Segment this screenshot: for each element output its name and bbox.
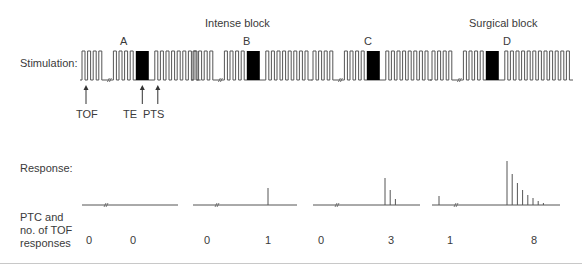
arrows <box>84 85 161 104</box>
tof-arrow-head <box>84 85 89 90</box>
pulse-train <box>430 51 573 80</box>
stimulation-block-b <box>191 51 312 82</box>
stimulation-block-a <box>80 51 201 82</box>
response-traces <box>82 161 560 207</box>
response-trace-a <box>82 203 178 207</box>
response-trace-d <box>432 161 560 207</box>
stimulation-response-diagram <box>0 0 582 269</box>
tetanus-block <box>247 51 260 80</box>
stimulation-block-c <box>311 51 432 82</box>
te-arrow-head <box>140 85 145 90</box>
tetanus-block <box>136 51 149 80</box>
tetanus-block <box>486 51 499 80</box>
bottom-divider <box>0 263 582 264</box>
response-trace-b <box>193 188 297 207</box>
stimulation-trains <box>80 51 573 82</box>
response-trace-c <box>313 178 420 207</box>
pts-arrow-head <box>155 85 160 90</box>
stimulation-block-d <box>430 51 573 82</box>
tetanus-block <box>367 51 380 80</box>
